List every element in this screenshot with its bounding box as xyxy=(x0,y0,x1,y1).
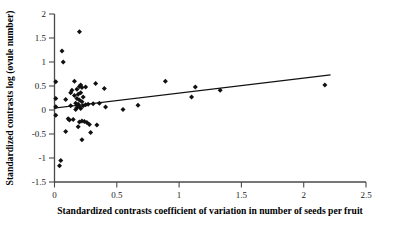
y-tick-label: -0.5 xyxy=(32,129,47,139)
chart-canvas: -1.5-1-0.500.511.52 00.511.522.5 Standar… xyxy=(0,0,411,227)
scatter-plot-figure: -1.5-1-0.500.511.52 00.511.522.5 Standar… xyxy=(0,0,411,227)
y-tick-label: -1 xyxy=(39,153,47,163)
y-tick-label: -1.5 xyxy=(32,177,47,187)
x-tick-label: 1 xyxy=(177,190,182,200)
y-tick-label: 1.5 xyxy=(35,33,47,43)
x-tick-label: 2 xyxy=(301,190,306,200)
x-tick-label: 0.5 xyxy=(111,190,123,200)
y-tick-label: 0 xyxy=(42,105,47,115)
y-tick-label: 0.5 xyxy=(35,81,47,91)
x-tick-label: 1.5 xyxy=(236,190,248,200)
x-tick-label: 2.5 xyxy=(360,190,372,200)
y-axis-label: Standardized contrasts log (ovule number… xyxy=(4,11,16,186)
chart-background xyxy=(0,0,411,227)
y-tick-label: 2 xyxy=(42,9,47,19)
x-axis-label: Standardized contrasts coefficient of va… xyxy=(57,205,363,216)
x-tick-label: 0 xyxy=(52,190,57,200)
y-tick-label: 1 xyxy=(42,57,47,67)
